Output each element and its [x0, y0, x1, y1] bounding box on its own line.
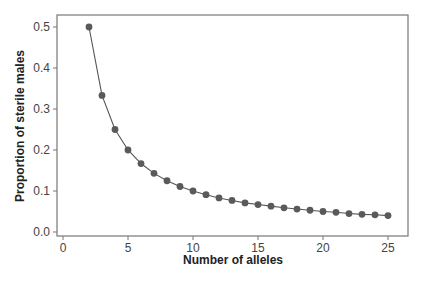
data-point	[86, 24, 93, 31]
data-point	[229, 197, 236, 204]
x-axis-title: Number of alleles	[183, 253, 283, 267]
data-point	[190, 188, 197, 195]
x-tick-label: 25	[381, 241, 395, 255]
data-point	[203, 191, 210, 198]
data-point	[281, 204, 288, 211]
y-tick-label: 0.2	[33, 143, 50, 157]
data-point	[294, 206, 301, 213]
chart: 0.00.10.20.30.40.5 0510152025 Number of …	[0, 0, 421, 281]
data-point	[385, 212, 392, 219]
y-tick-label: 0.0	[33, 225, 50, 239]
data-point	[372, 211, 379, 218]
series-line	[89, 27, 388, 216]
x-tick-label: 20	[316, 241, 330, 255]
data-point	[138, 160, 145, 167]
x-tick-label: 0	[60, 241, 67, 255]
data-point	[333, 209, 340, 216]
y-tick-label: 0.3	[33, 102, 50, 116]
data-point	[268, 203, 275, 210]
data-point	[151, 170, 158, 177]
data-point	[99, 92, 106, 99]
data-point	[359, 211, 366, 218]
x-tick-label: 5	[125, 241, 132, 255]
data-point	[255, 201, 262, 208]
data-point	[320, 208, 327, 215]
data-series	[86, 24, 392, 219]
data-point	[307, 207, 314, 214]
data-point	[346, 210, 353, 217]
data-point	[177, 183, 184, 190]
data-point	[112, 126, 119, 133]
y-tick-label: 0.5	[33, 20, 50, 34]
data-point	[242, 199, 249, 206]
y-axis: 0.00.10.20.30.40.5	[33, 20, 57, 239]
y-axis-title: Proportion of sterile males	[13, 50, 27, 202]
y-tick-label: 0.4	[33, 61, 50, 75]
data-point	[164, 177, 171, 184]
data-point	[125, 147, 132, 154]
y-tick-label: 0.1	[33, 184, 50, 198]
data-point	[216, 195, 223, 202]
